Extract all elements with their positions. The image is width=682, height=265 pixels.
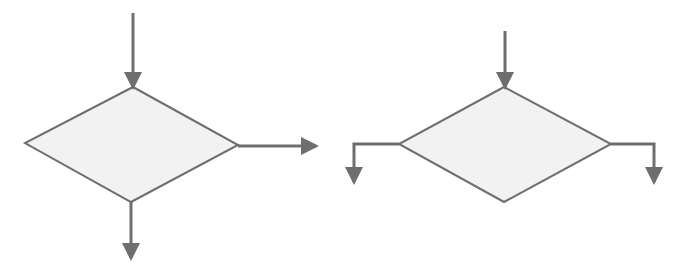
arrow-out-right-icon bbox=[611, 144, 654, 182]
arrow-out-left-icon bbox=[354, 144, 399, 182]
decision-diamond bbox=[25, 87, 238, 202]
decision-1-group bbox=[25, 13, 316, 258]
decision-2-group bbox=[354, 31, 654, 202]
decision-diamond bbox=[399, 87, 611, 202]
flowchart-canvas bbox=[0, 0, 682, 265]
